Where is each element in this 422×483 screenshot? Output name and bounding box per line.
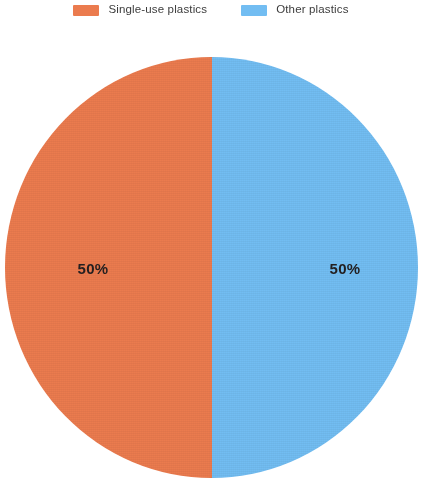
legend-swatch-icon-other-plastics [241, 5, 267, 16]
pie-chart: Single-use plastics Other plastics 50% 5… [0, 0, 422, 483]
legend-label-other-plastics: Other plastics [276, 4, 348, 16]
legend-label-single-use-plastics: Single-use plastics [108, 4, 207, 16]
pie-slice-other-plastics[interactable] [212, 57, 419, 478]
legend-item-single-use-plastics[interactable]: Single-use plastics [73, 4, 207, 16]
chart-legend: Single-use plastics Other plastics [0, 0, 422, 20]
legend-swatch-icon-single-use-plastics [73, 5, 99, 16]
legend-item-other-plastics[interactable]: Other plastics [241, 4, 348, 16]
pie-area: 50% 50% [5, 57, 418, 478]
pie-slice-value-other-plastics: 50% [330, 260, 361, 277]
pie-slice-value-single-use-plastics: 50% [78, 260, 109, 277]
